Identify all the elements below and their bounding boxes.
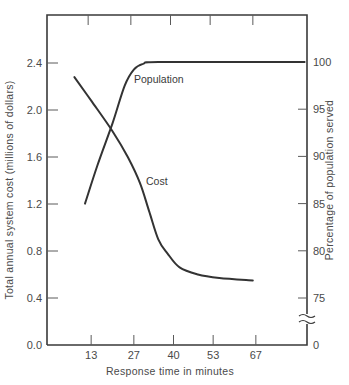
population-curve-label: Population bbox=[134, 73, 184, 85]
left-y-axis-title: Total annual system cost (millions of do… bbox=[3, 80, 15, 299]
y2-tick-label: 0 bbox=[313, 339, 319, 351]
x-tick-label: 40 bbox=[167, 349, 179, 361]
axis-break-icon bbox=[299, 314, 315, 324]
y-tick-label: 2.0 bbox=[27, 104, 42, 116]
left-y-axis-ticks: 0.00.40.81.21.62.02.4 bbox=[27, 57, 58, 351]
x-axis-title: Response time in minutes bbox=[106, 365, 234, 377]
y-tick-label: 0.4 bbox=[27, 292, 42, 304]
y-tick-label: 1.2 bbox=[27, 198, 42, 210]
cost-curve-label: Cost bbox=[146, 175, 168, 187]
x-tick-label: 67 bbox=[250, 349, 262, 361]
y-tick-label: 0.0 bbox=[27, 339, 42, 351]
y-tick-label: 1.6 bbox=[27, 151, 42, 163]
y-tick-label: 0.8 bbox=[27, 245, 42, 257]
chart-canvas: 1327405367 0.00.40.81.21.62.02.4 0758085… bbox=[0, 0, 349, 385]
y-tick-label: 2.4 bbox=[27, 57, 42, 69]
x-axis-ticks: 1327405367 bbox=[85, 15, 262, 361]
y2-tick-label: 75 bbox=[313, 292, 325, 304]
right-y-axis-title: Percentage of population served bbox=[323, 100, 335, 261]
x-tick-label: 13 bbox=[85, 349, 97, 361]
x-tick-label: 27 bbox=[128, 349, 140, 361]
x-tick-label: 53 bbox=[207, 349, 219, 361]
plot-frame bbox=[47, 15, 307, 345]
left-axis bbox=[47, 15, 307, 345]
curves bbox=[74, 62, 304, 281]
population-curve bbox=[85, 62, 305, 204]
chart: 1327405367 0.00.40.81.21.62.02.4 0758085… bbox=[0, 0, 349, 385]
y2-tick-label: 100 bbox=[313, 56, 331, 68]
